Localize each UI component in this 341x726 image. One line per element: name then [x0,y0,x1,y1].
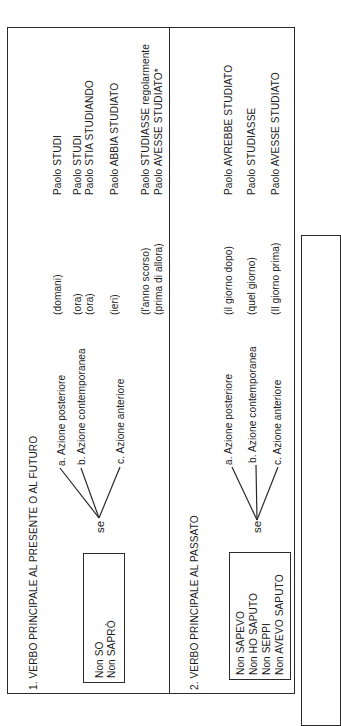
section2-sentence: Paolo AVREBBE STUDIATO [222,65,234,195]
section2-action-b: b. Azione contemporanea [246,346,258,463]
section2-time-marker: (quel giorno) [245,257,257,315]
section2-action-a: a. Azione posteriore [222,374,234,465]
section2-sentence: Paolo AVESSE STUDIATO [269,72,281,195]
section2-time-marker: (Il giorno prima) [269,243,281,315]
section2-sentence: Paolo STUDIASSE [245,108,257,195]
section2-time-marker: (il giorno dopo) [222,246,234,315]
section2-action-c: c. Azione anteriore [271,380,283,465]
